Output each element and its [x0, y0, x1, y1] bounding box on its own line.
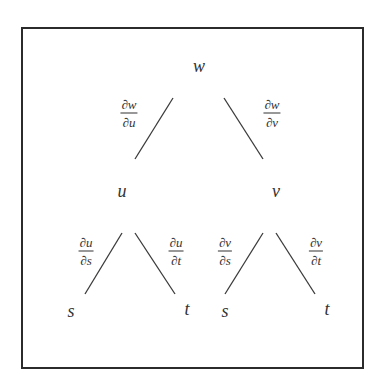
tree-edges: [0, 0, 379, 382]
partial-dw-du: ∂w ∂u: [120, 98, 137, 129]
fraction-numerator: ∂v: [218, 236, 232, 252]
node-w: w: [193, 57, 205, 75]
partial-du-ds: ∂u ∂s: [79, 236, 94, 267]
fraction-denominator: ∂s: [218, 252, 231, 267]
node-v-t: t: [324, 300, 329, 318]
partial-dw-dv: ∂w ∂v: [263, 98, 280, 129]
node-v: v: [272, 182, 280, 200]
fraction-numerator: ∂u: [169, 236, 184, 252]
fraction-numerator: ∂w: [120, 98, 137, 114]
node-u-s: s: [67, 302, 74, 320]
fraction-denominator: ∂t: [170, 252, 182, 267]
fraction-numerator: ∂v: [309, 236, 323, 252]
fraction-numerator: ∂u: [79, 236, 94, 252]
partial-dv-ds: ∂v ∂s: [218, 236, 232, 267]
fraction-denominator: ∂v: [265, 114, 279, 129]
node-v-s: s: [221, 302, 228, 320]
fraction-denominator: ∂u: [122, 114, 137, 129]
partial-du-dt: ∂u ∂t: [169, 236, 184, 267]
partial-dv-dt: ∂v ∂t: [309, 236, 323, 267]
fraction-numerator: ∂w: [263, 98, 280, 114]
fraction-denominator: ∂s: [79, 252, 92, 267]
edge-w-u: [135, 98, 173, 159]
fraction-denominator: ∂t: [310, 252, 322, 267]
node-u: u: [118, 182, 127, 200]
node-u-t: t: [184, 300, 189, 318]
edge-w-v: [224, 98, 263, 159]
